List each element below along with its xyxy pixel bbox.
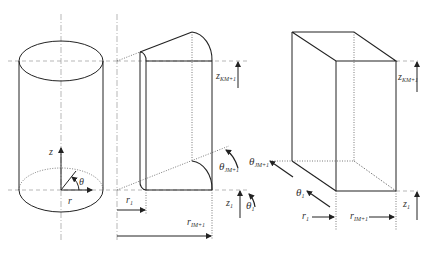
cell-top-edge: [140, 32, 192, 52]
rIM-label: rIM+1: [187, 216, 205, 228]
theta-label: θ: [79, 176, 84, 187]
coordinate-transformation-diagram: z r θ r1 rIM+1: [0, 0, 436, 261]
box-top-face: [292, 32, 396, 61]
z-label: z: [48, 146, 53, 157]
box-z1-label: z1: [402, 198, 410, 210]
theta-arc-arrow-icon: [72, 177, 79, 190]
cylinder-panel: z r θ: [8, 14, 120, 242]
box-thetaJM-label: θJM+1: [249, 155, 269, 168]
radial-line: [61, 171, 76, 190]
cell-bottom-inner-arc: [140, 181, 146, 190]
z1-label: z1: [225, 197, 233, 209]
box-r1-label: r1: [302, 210, 309, 222]
box-theta1-label: θ1: [296, 186, 304, 199]
thetaJM-arrow-icon: [226, 150, 238, 168]
cell-top-outer-arc: [192, 32, 212, 61]
box-zKM-label: zKM+1: [397, 71, 418, 83]
box-theta1-arrow-icon: [307, 191, 330, 207]
r-label: r: [68, 195, 72, 206]
box-hidden-right-bottom: [354, 161, 396, 191]
zKM-label: zKM+1: [215, 70, 236, 82]
box-rIM-label: rIM+1: [350, 210, 368, 222]
box-panel: r1 rIM+1 zKM+1 z1 θJM+1 θ1: [249, 32, 418, 230]
top-radial-guide: [117, 52, 140, 61]
cell-top-inner-arc: [140, 52, 146, 61]
box-thetaJM-arrow-icon: [270, 161, 293, 177]
cell-bottom-outer-arc: [192, 161, 212, 190]
cell-panel: r1 rIM+1 zKM+1 z1 θJM+1 θ1: [117, 14, 255, 242]
r1-label: r1: [126, 194, 133, 206]
